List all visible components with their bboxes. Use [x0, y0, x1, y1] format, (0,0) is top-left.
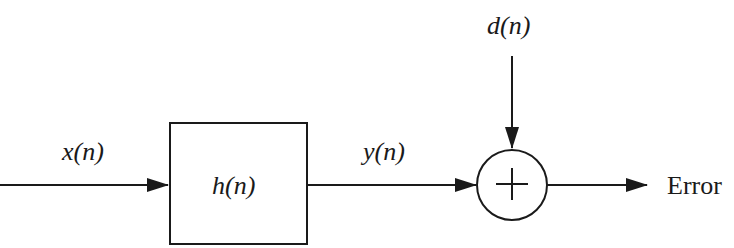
adaptive-filter-diagram: x(n) h(n) y(n) d(n) Error	[0, 0, 734, 248]
input-label: x(n)	[61, 137, 104, 166]
error-label: Error	[667, 171, 722, 200]
desired-signal-label: d(n)	[487, 11, 530, 40]
plus-icon	[496, 168, 528, 200]
filter-label: h(n)	[212, 171, 255, 200]
filter-output-label: y(n)	[360, 137, 405, 166]
